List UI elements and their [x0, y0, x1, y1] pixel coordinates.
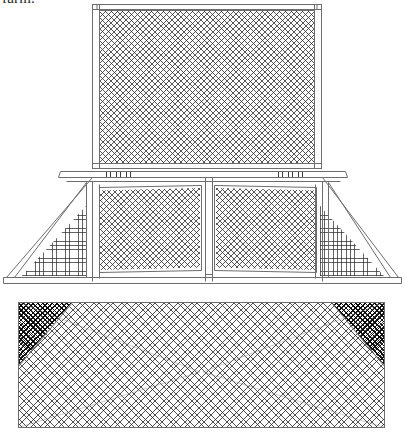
- mid-panel-right-clip: [216, 188, 316, 270]
- drawing-canvas: farm.: [0, 0, 405, 438]
- mid-rail-right-cap: [346, 172, 348, 178]
- lower-screen-panel-mesh: [18, 302, 385, 428]
- mid-rail-left-cap: [59, 172, 61, 178]
- side-wing-right-clip: [320, 206, 384, 276]
- mid-panel-left-clip: [100, 188, 200, 270]
- hinge-marks-left: [107, 172, 131, 177]
- side-wing-left-mesh: [22, 206, 86, 276]
- mid-panel-left-mesh: [100, 188, 200, 270]
- upper-right-corner-nib: [317, 5, 322, 10]
- upper-screen-panel-mesh: [100, 11, 314, 163]
- upper-left-corner-nib: [93, 5, 98, 10]
- side-wing-right-mesh: [320, 206, 384, 276]
- clipped-caption-text: farm.: [2, 0, 35, 6]
- hinge-marks-right: [279, 172, 303, 177]
- side-wing-left-clip: [22, 206, 86, 276]
- mid-panel-right-mesh: [216, 188, 316, 270]
